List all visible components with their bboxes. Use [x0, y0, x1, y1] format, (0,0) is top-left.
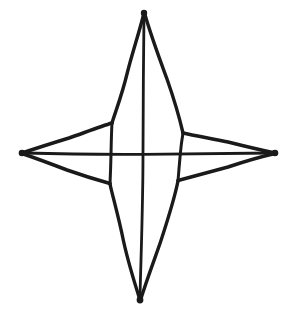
four-pointed-star-figure	[0, 0, 297, 315]
shoulder-link-lower-left	[110, 154, 111, 184]
star-drawing-canvas	[0, 0, 297, 315]
inner-horizontal-construction-line	[24, 153, 273, 154]
shoulder-link-upper-left	[111, 123, 112, 154]
